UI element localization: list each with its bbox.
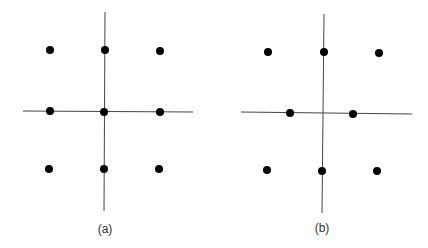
lattice-dot (263, 166, 271, 174)
vertical-axis (322, 14, 324, 213)
lattice-diagram (0, 0, 428, 248)
lattice-dot (101, 46, 109, 54)
lattice-dot (100, 108, 108, 116)
lattice-dot (373, 167, 381, 175)
horizontal-axis (241, 112, 412, 114)
panel-b-label: (b) (315, 221, 330, 235)
lattice-dot (100, 165, 108, 173)
lattice-dot (349, 110, 357, 118)
panel-b (241, 14, 412, 213)
lattice-dot (264, 48, 272, 56)
lattice-dot (155, 165, 163, 173)
panel-a (23, 12, 193, 211)
lattice-dot (45, 165, 53, 173)
lattice-dot (286, 109, 294, 117)
lattice-dot (156, 47, 164, 55)
lattice-dot (156, 108, 164, 116)
lattice-dot (46, 46, 54, 54)
lattice-dot (375, 49, 383, 57)
panel-a-label: (a) (98, 222, 113, 236)
lattice-dot (320, 48, 328, 56)
lattice-dot (46, 107, 54, 115)
lattice-dot (318, 167, 326, 175)
